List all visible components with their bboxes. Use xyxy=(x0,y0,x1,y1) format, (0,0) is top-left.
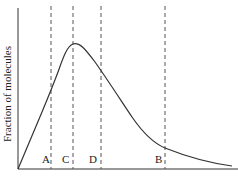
marker-label-a: A xyxy=(42,153,50,165)
marker-label-d: D xyxy=(89,153,97,165)
marker-label-c: C xyxy=(62,153,69,165)
distribution-diagram: Fraction of molecules A C D B xyxy=(0,0,238,176)
marker-label-b: B xyxy=(155,153,162,165)
marker-lines xyxy=(51,6,165,169)
y-axis-label: Fraction of molecules xyxy=(1,46,13,142)
distribution-curve xyxy=(18,44,232,169)
